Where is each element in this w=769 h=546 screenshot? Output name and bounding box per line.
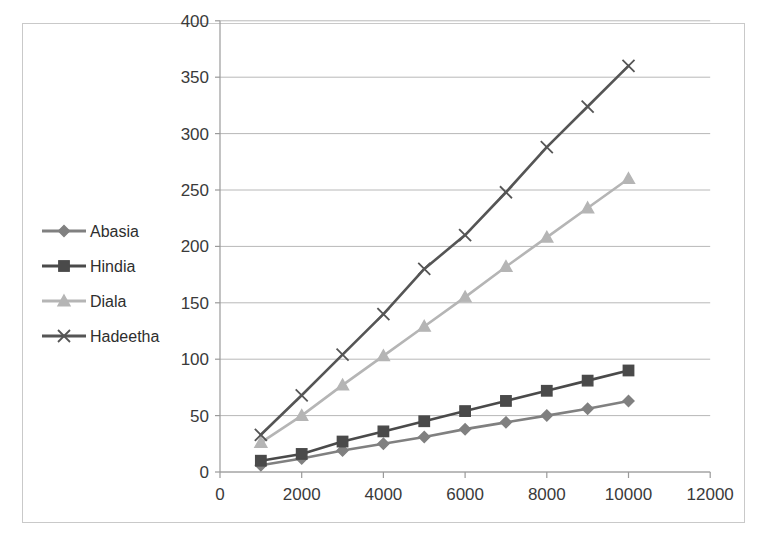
data-point-marker-x xyxy=(418,263,430,275)
y-tick-label: 350 xyxy=(181,68,209,87)
data-series xyxy=(255,60,635,471)
legend-item-hadeetha[interactable]: Hadeetha xyxy=(42,328,159,345)
y-tick-label: 400 xyxy=(181,12,209,31)
x-axis-tick-labels: 020004000600080001000012000 xyxy=(215,485,734,504)
data-point-marker-square xyxy=(337,436,347,446)
y-tick-label: 100 xyxy=(181,350,209,369)
data-point-marker-square xyxy=(623,365,633,375)
y-tick-label: 50 xyxy=(190,407,209,426)
y-tick-label: 250 xyxy=(181,181,209,200)
series-line-hadeetha xyxy=(261,66,629,435)
data-point-marker-diamond xyxy=(623,395,634,406)
legend-label: Diala xyxy=(90,293,127,310)
data-point-marker-square xyxy=(419,416,429,426)
data-point-marker-x xyxy=(296,389,308,401)
x-tick-label: 6000 xyxy=(446,485,484,504)
y-tick-label: 0 xyxy=(200,463,209,482)
data-point-marker-square xyxy=(542,386,552,396)
data-point-marker-x xyxy=(623,60,635,72)
x-tick-label: 10000 xyxy=(605,485,652,504)
data-point-marker-square xyxy=(582,375,592,385)
legend-item-abasia[interactable]: Abasia xyxy=(42,223,139,240)
data-point-marker-square xyxy=(256,456,266,466)
data-point-marker-diamond xyxy=(541,410,552,421)
data-point-marker-square xyxy=(378,426,388,436)
data-point-marker-square xyxy=(59,261,69,271)
data-point-marker-diamond xyxy=(419,432,430,443)
line-chart: 050100150200250300350400 020004000600080… xyxy=(0,0,769,546)
legend-item-diala[interactable]: Diala xyxy=(42,293,127,310)
series-diala xyxy=(255,173,635,448)
data-point-marker-diamond xyxy=(378,438,389,449)
data-point-marker-x xyxy=(541,141,553,153)
data-point-marker-square xyxy=(460,406,470,416)
data-point-marker-x xyxy=(377,308,389,320)
legend-label: Abasia xyxy=(90,223,139,240)
y-tick-label: 300 xyxy=(181,125,209,144)
data-point-marker-x xyxy=(582,101,594,113)
x-tick-label: 2000 xyxy=(283,485,321,504)
y-axis-tick-labels: 050100150200250300350400 xyxy=(181,12,209,482)
legend-item-hindia[interactable]: Hindia xyxy=(42,258,135,275)
y-tick-label: 150 xyxy=(181,294,209,313)
x-tick-label: 12000 xyxy=(687,485,734,504)
legend-label: Hindia xyxy=(90,258,135,275)
data-point-marker-diamond xyxy=(59,226,70,237)
chart-legend: AbasiaHindiaDialaHadeetha xyxy=(42,223,159,345)
data-point-marker-triangle xyxy=(623,173,635,184)
legend-label: Hadeetha xyxy=(90,328,159,345)
x-tick-label: 0 xyxy=(215,485,224,504)
data-point-marker-diamond xyxy=(582,403,593,414)
data-point-marker-x xyxy=(459,229,471,241)
x-tick-label: 4000 xyxy=(364,485,402,504)
data-point-marker-diamond xyxy=(460,424,471,435)
series-line-diala xyxy=(261,179,629,443)
data-point-marker-diamond xyxy=(500,417,511,428)
y-tick-label: 200 xyxy=(181,237,209,256)
x-tick-label: 8000 xyxy=(528,485,566,504)
series-line-abasia xyxy=(261,401,629,465)
data-point-marker-x xyxy=(500,186,512,198)
data-point-marker-square xyxy=(501,396,511,406)
data-point-marker-square xyxy=(297,449,307,459)
